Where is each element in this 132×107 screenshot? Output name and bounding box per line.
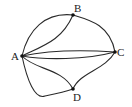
edge-b-c <box>73 15 115 52</box>
node-label-d: D <box>73 91 81 103</box>
edge-a-b-outer <box>22 15 73 56</box>
node-a <box>20 54 24 58</box>
node-label-b: B <box>74 2 81 14</box>
edge-a-d-inner <box>22 56 73 89</box>
node-label-c: C <box>117 46 124 58</box>
node-label-a: A <box>11 50 19 62</box>
graph-diagram: A B C D <box>0 0 132 107</box>
